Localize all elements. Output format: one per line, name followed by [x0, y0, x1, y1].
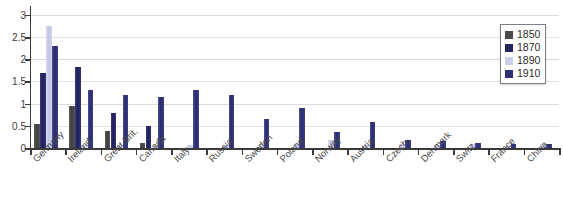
y-axis-tick-label: 1.5	[2, 77, 26, 87]
y-axis-tick-mark	[25, 126, 30, 128]
y-axis-tick-label: 0	[2, 144, 26, 154]
y-axis-tick-label: 1	[2, 100, 26, 110]
legend-swatch-icon	[505, 31, 513, 39]
x-axis-tick-mark	[559, 148, 561, 155]
bar-group	[105, 6, 140, 148]
legend-item: 1850	[505, 28, 540, 41]
legend-item: 1910	[505, 67, 540, 80]
y-axis-tick-label: 2	[2, 55, 26, 65]
bar-group	[210, 6, 245, 148]
bar	[34, 124, 40, 148]
legend-label: 1910	[517, 68, 540, 79]
bar	[69, 106, 75, 148]
legend-label: 1870	[517, 42, 540, 53]
legend-swatch-icon	[505, 70, 513, 78]
bar-group	[457, 6, 492, 148]
plot-area	[30, 6, 559, 148]
chart-legend: 1850187018901910	[500, 24, 546, 84]
bar-chart: 00.511.522.53 GermanyIrelandGreat Brit.C…	[0, 0, 563, 214]
bar-group	[351, 6, 386, 148]
legend-swatch-icon	[505, 57, 513, 65]
bar	[105, 131, 111, 148]
bar-group	[246, 6, 281, 148]
legend-item: 1890	[505, 54, 540, 67]
bar	[75, 67, 81, 148]
legend-label: 1890	[517, 55, 540, 66]
bar-group	[422, 6, 457, 148]
bar	[40, 73, 46, 148]
y-axis-tick-label: 2.5	[2, 33, 26, 43]
y-axis-tick-mark	[25, 15, 30, 17]
y-axis-tick-mark	[25, 59, 30, 61]
legend-label: 1850	[517, 29, 540, 40]
y-axis-tick-label: 0.5	[2, 122, 26, 132]
bar-group	[316, 6, 351, 148]
bar	[193, 90, 199, 148]
y-axis-tick-label: 3	[2, 11, 26, 21]
legend-swatch-icon	[505, 44, 513, 52]
y-axis-tick-mark	[25, 37, 30, 39]
bar-group	[34, 6, 69, 148]
bar-group	[387, 6, 422, 148]
legend-item: 1870	[505, 41, 540, 54]
bar-group	[175, 6, 210, 148]
y-axis-tick-mark	[25, 81, 30, 83]
bar-group	[69, 6, 104, 148]
bar	[46, 26, 52, 148]
bar-group	[140, 6, 175, 148]
y-axis-tick-mark	[25, 104, 30, 106]
bar-group	[281, 6, 316, 148]
